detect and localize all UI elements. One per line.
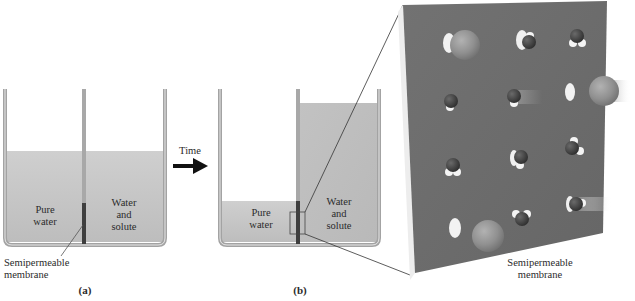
- label-water-solute-b: Water and solute: [311, 196, 367, 232]
- time-arrow: [173, 158, 208, 174]
- label-line: and: [96, 209, 152, 221]
- water-molecule-passing: [566, 196, 612, 212]
- label-pure-water-a: Pure water: [20, 204, 70, 228]
- label-line: solute: [96, 221, 152, 233]
- label-line: Water: [311, 196, 367, 208]
- label-line: Semipermeable: [4, 257, 104, 269]
- divider-b: [296, 89, 300, 201]
- beaker-b: [220, 5, 410, 275]
- osmosis-figure: Pure water Water and solute Semipermeabl…: [0, 0, 635, 301]
- divider-a: [82, 89, 86, 203]
- label-line: membrane: [4, 269, 104, 281]
- panel-label-b: (b): [285, 284, 315, 296]
- panel-label-a: (a): [70, 284, 100, 296]
- label-semipermeable-membrane-magnified: Semipermeable membrane: [500, 257, 580, 281]
- magnified-membrane: [398, 1, 631, 280]
- label-line: solute: [311, 220, 367, 232]
- label-line: membrane: [500, 269, 580, 281]
- time-label: Time: [170, 145, 210, 157]
- label-line: water: [20, 216, 70, 228]
- label-line: Semipermeable: [500, 257, 580, 269]
- label-line: Pure: [20, 204, 70, 216]
- label-line: Water: [96, 197, 152, 209]
- label-pure-water-b: Pure water: [236, 207, 286, 231]
- membrane-a: [82, 203, 86, 244]
- label-water-solute-a: Water and solute: [96, 197, 152, 233]
- label-line: Pure: [236, 207, 286, 219]
- label-semipermeable-membrane-a: Semipermeable membrane: [4, 257, 104, 281]
- label-line: and: [311, 208, 367, 220]
- arrow-right-icon: [193, 158, 208, 174]
- label-line: water: [236, 219, 286, 231]
- membrane-b: [296, 201, 300, 244]
